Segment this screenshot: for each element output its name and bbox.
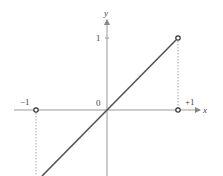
x-axis-label: x [202,105,207,115]
origin-label: 0 [96,98,101,108]
open-point-1-1 [176,36,180,40]
function-graph: y x 1 0 −1 +1 [0,0,223,176]
open-point-1-0 [176,108,180,112]
x-tick-label-pos1: +1 [185,97,195,107]
y-axis-label: y [103,8,108,18]
function-line [42,40,176,176]
y-tick-label-1: 1 [96,33,101,43]
x-tick-label-neg1: −1 [20,97,30,107]
open-point-neg1-0 [34,108,38,112]
